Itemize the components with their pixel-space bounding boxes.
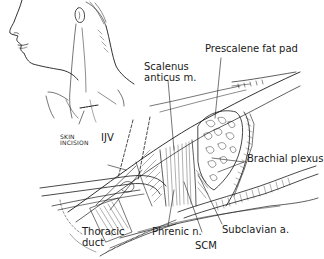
thoracic-duct-label-line1: Thoracic [82, 227, 125, 238]
scalenus-label-line2: anticus m. [144, 73, 196, 84]
skin-incision-label: SKIN INCISION [60, 134, 89, 147]
scm-label: SCM [195, 241, 217, 252]
subclavian-artery-label: Subclavian a. [222, 225, 289, 236]
scalenus-anticus-label: Scalenus anticus m. [144, 62, 196, 83]
thoracic-duct-label-line2: duct [82, 238, 125, 249]
illustration-line-art [0, 0, 324, 259]
anatomy-figure: SKIN INCISION Scalenus anticus m. Presca… [0, 0, 324, 259]
skin-incision-label-line2: INCISION [60, 140, 89, 146]
scalenus-label-line1: Scalenus [144, 62, 196, 73]
brachial-plexus-label: Brachial plexus [247, 154, 323, 165]
thoracic-duct-label: Thoracic duct [82, 227, 125, 248]
phrenic-nerve-label: Phrenic n. [152, 227, 202, 238]
prescalene-fat-pad-label: Prescalene fat pad [205, 44, 298, 55]
head-profile-icon [10, 0, 134, 124]
ijv-label: IJV [101, 133, 114, 144]
